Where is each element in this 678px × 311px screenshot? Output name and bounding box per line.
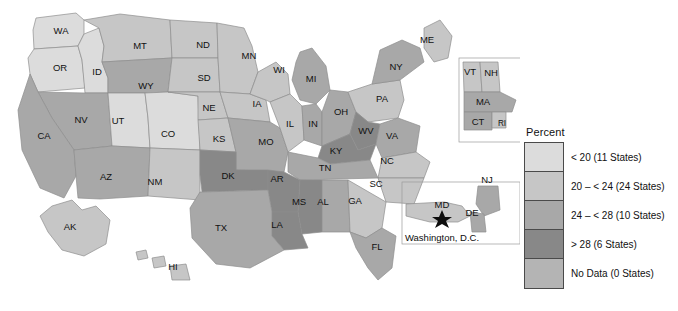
state-VA[interactable] xyxy=(376,118,420,158)
legend-swatch-2[interactable] xyxy=(525,201,563,230)
legend-label-1: 20 – < 24 (24 States) xyxy=(571,182,665,192)
state-ND[interactable] xyxy=(170,20,218,58)
state-HI-3[interactable] xyxy=(170,264,190,280)
state-WY[interactable] xyxy=(102,58,172,93)
us-map-svg: WA OR ID MT WY ND SD MN WI MI ME NY VT N… xyxy=(0,0,520,311)
state-AK[interactable] xyxy=(40,200,110,256)
legend-swatch-0[interactable] xyxy=(525,143,563,172)
legend-label-0: < 20 (11 States) xyxy=(571,153,642,163)
state-VT[interactable] xyxy=(463,62,482,92)
legend-swatch-4[interactable] xyxy=(525,259,563,288)
state-MI[interactable] xyxy=(292,48,330,104)
legend-label-4: No Data (0 States) xyxy=(571,269,654,279)
state-label-NJ: NJ xyxy=(481,174,493,185)
state-IN[interactable] xyxy=(302,104,322,146)
legend-labels: < 20 (11 States) 20 – < 24 (24 States) 2… xyxy=(571,142,678,287)
state-SD[interactable] xyxy=(168,58,220,92)
state-MN[interactable] xyxy=(217,23,258,94)
legend-label-2: 24 – < 28 (10 States) xyxy=(571,211,665,221)
state-RI[interactable] xyxy=(492,112,506,128)
state-MA[interactable] xyxy=(464,92,516,112)
choropleth-figure: WA OR ID MT WY ND SD MN WI MI ME NY VT N… xyxy=(0,0,678,311)
state-NM[interactable] xyxy=(148,148,200,200)
state-ME[interactable] xyxy=(424,20,452,62)
state-AL[interactable] xyxy=(322,180,350,232)
legend-swatches xyxy=(524,142,564,289)
state-CT[interactable] xyxy=(464,112,492,130)
state-MS[interactable] xyxy=(298,180,322,234)
legend-swatch-3[interactable] xyxy=(525,230,563,259)
state-TX[interactable] xyxy=(190,190,284,268)
state-DE[interactable] xyxy=(470,212,486,232)
state-HI-2[interactable] xyxy=(152,256,166,268)
legend: Percent < 20 (11 States) 20 – < 24 (24 S… xyxy=(520,126,678,289)
state-AZ[interactable] xyxy=(74,146,150,199)
legend-swatch-1[interactable] xyxy=(525,172,563,201)
state-FL[interactable] xyxy=(350,228,396,280)
legend-title: Percent xyxy=(526,126,678,138)
state-WA[interactable] xyxy=(33,13,84,49)
us-map: WA OR ID MT WY ND SD MN WI MI ME NY VT N… xyxy=(0,0,520,311)
state-NJ[interactable] xyxy=(476,186,500,216)
state-CO[interactable] xyxy=(145,92,200,150)
state-NH[interactable] xyxy=(480,62,500,92)
dc-label: Washington, D.C. xyxy=(405,232,479,243)
state-OR[interactable] xyxy=(28,46,85,92)
state-HI-1[interactable] xyxy=(136,250,148,260)
state-UT[interactable] xyxy=(108,93,150,148)
state-NY[interactable] xyxy=(372,40,424,84)
legend-label-3: > 28 (6 States) xyxy=(571,240,637,250)
